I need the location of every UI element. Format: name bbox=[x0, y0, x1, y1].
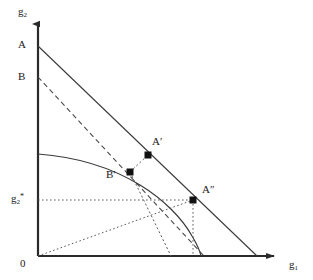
point-label-b-prime: B′ bbox=[106, 169, 116, 180]
point-a-prime bbox=[145, 152, 152, 159]
origin-label: 0 bbox=[20, 258, 26, 269]
ray-from-origin bbox=[38, 200, 193, 256]
intercept-label-g2-star: g2* bbox=[11, 193, 24, 206]
intercept-label-a: A bbox=[18, 39, 26, 50]
x-axis-label: g1 bbox=[289, 259, 298, 272]
y-axis-label: g2 bbox=[18, 6, 27, 19]
economics-diagram: g2 g1 0 A B g2* A′ B′ A″ bbox=[0, 0, 313, 280]
point-label-a-prime: A′ bbox=[152, 136, 162, 147]
intercept-label-b: B bbox=[18, 71, 25, 82]
point-a-double-prime bbox=[190, 197, 197, 204]
point-b-prime bbox=[127, 169, 134, 176]
budget-line-a bbox=[38, 46, 257, 256]
transformation-frontier bbox=[38, 154, 201, 256]
connector-bprime-down bbox=[130, 172, 171, 256]
budget-line-b bbox=[38, 77, 204, 256]
point-label-a-double-prime: A″ bbox=[202, 184, 215, 195]
